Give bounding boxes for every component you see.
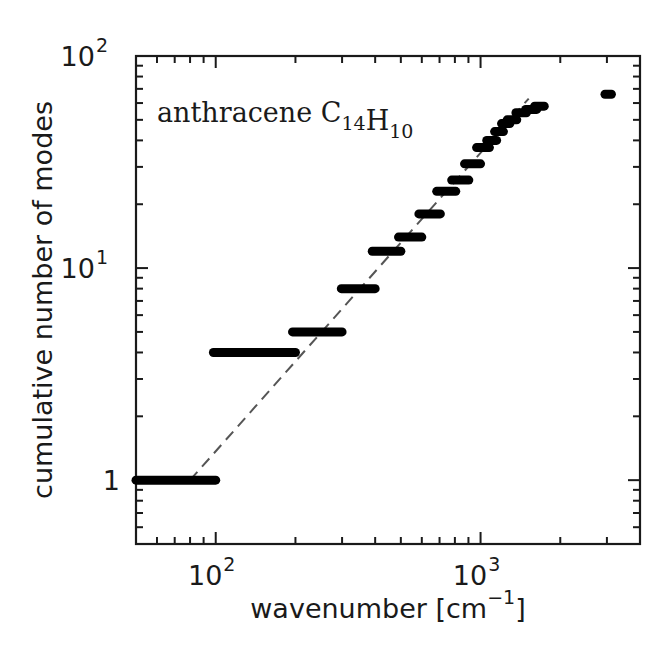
x-axis-label: wavenumber [cm−1] bbox=[250, 586, 525, 624]
y-tick-label: 1 bbox=[103, 465, 120, 496]
y-axis-label: cumulative number of modes bbox=[27, 101, 58, 499]
data-series bbox=[136, 94, 611, 480]
chart-annotation: anthracene C14H10 bbox=[157, 97, 413, 142]
y-tick-label: 102 bbox=[61, 34, 108, 72]
y-tick-label: 101 bbox=[61, 246, 108, 284]
chart: 1021031101102 anthracene C14H10 wavenumb… bbox=[0, 0, 667, 651]
x-tick-label: 102 bbox=[188, 553, 235, 591]
